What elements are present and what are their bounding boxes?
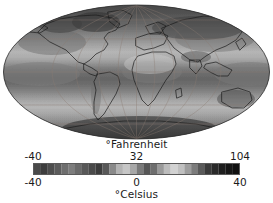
colorbar-band	[232, 164, 239, 174]
celsius-tick-row: -40 0 40	[33, 176, 240, 188]
celsius-tick-min: -40	[24, 176, 41, 188]
colorbar-band	[171, 164, 178, 174]
colorbar-band	[219, 164, 226, 174]
colorbar-band	[225, 164, 232, 174]
world-map	[0, 2, 273, 140]
temperature-map-figure: °Fahrenheit -40 32 104 -40 0 40 °Celsius	[0, 0, 273, 203]
colorbar-band	[150, 164, 157, 174]
colorbar-band	[109, 164, 116, 174]
colorbar-band	[205, 164, 212, 174]
colorbar-band	[164, 164, 171, 174]
temperature-colorbar[interactable]	[33, 163, 240, 175]
colorbar-band	[198, 164, 205, 174]
celsius-axis-label: °Celsius	[0, 188, 273, 200]
colorbar-band	[157, 164, 164, 174]
colorbar-band	[48, 164, 55, 174]
celsius-tick-mid: 0	[133, 176, 140, 188]
legend-panel: °Fahrenheit -40 32 104 -40 0 40 °Celsius	[0, 138, 273, 203]
colorbar-gradient	[34, 164, 239, 174]
colorbar-band	[143, 164, 150, 174]
colorbar-band	[55, 164, 62, 174]
colorbar-band	[61, 164, 68, 174]
map-contents	[0, 2, 273, 140]
colorbar-band	[212, 164, 219, 174]
colorbar-band	[178, 164, 185, 174]
fahrenheit-tick-row: -40 32 104	[33, 150, 240, 162]
colorbar-band	[89, 164, 96, 174]
colorbar-band	[96, 164, 103, 174]
colorbar-band	[102, 164, 109, 174]
colorbar-band	[34, 164, 41, 174]
map-panel	[0, 2, 273, 140]
fahrenheit-tick-mid: 32	[130, 150, 143, 162]
colorbar-band	[75, 164, 82, 174]
colorbar-band	[123, 164, 130, 174]
colorbar-band	[191, 164, 198, 174]
celsius-tick-max: 40	[233, 176, 246, 188]
fahrenheit-tick-min: -40	[24, 150, 41, 162]
colorbar-band	[137, 164, 144, 174]
colorbar-band	[184, 164, 191, 174]
colorbar-band	[130, 164, 137, 174]
colorbar-band	[82, 164, 89, 174]
colorbar-band	[116, 164, 123, 174]
fahrenheit-tick-max: 104	[230, 150, 250, 162]
colorbar-band	[68, 164, 75, 174]
colorbar-band	[41, 164, 48, 174]
fahrenheit-axis-label: °Fahrenheit	[0, 138, 273, 150]
new-zealand-outline	[258, 106, 266, 114]
